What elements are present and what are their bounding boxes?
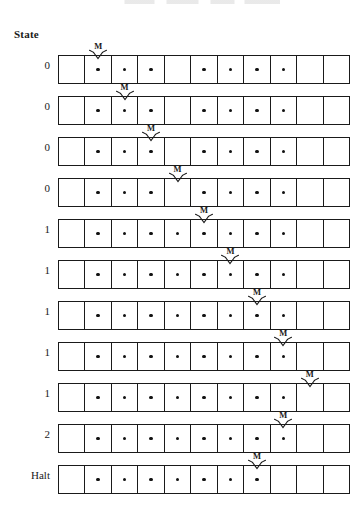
tape-cell[interactable]: [85, 466, 111, 493]
tape-cell[interactable]: [59, 179, 85, 206]
tape-cell[interactable]: [324, 466, 349, 493]
tape-cell[interactable]: [191, 97, 217, 124]
tape-cell[interactable]: [324, 138, 349, 165]
tape-cell[interactable]: [218, 97, 244, 124]
tape-cell[interactable]: [324, 220, 349, 247]
tape-cell[interactable]: [138, 179, 164, 206]
tape-cell[interactable]: [85, 343, 111, 370]
tape-cell[interactable]: [138, 302, 164, 329]
tape-cell[interactable]: [191, 179, 217, 206]
tape-cell[interactable]: [165, 466, 191, 493]
tape-cell[interactable]: [112, 343, 138, 370]
tape-cell[interactable]: [112, 302, 138, 329]
tape-cell[interactable]: [165, 138, 191, 165]
tape-cell[interactable]: [324, 343, 349, 370]
tape-cell[interactable]: M: [244, 302, 270, 329]
tape-cell[interactable]: [244, 261, 270, 288]
tape-cell[interactable]: M: [138, 138, 164, 165]
tape-cell[interactable]: [244, 220, 270, 247]
tape-cell[interactable]: [138, 384, 164, 411]
tape-cell[interactable]: [138, 261, 164, 288]
tape-cell[interactable]: [85, 425, 111, 452]
tape-cell[interactable]: [271, 97, 297, 124]
tape-cell[interactable]: [324, 384, 349, 411]
tape-cell[interactable]: [324, 179, 349, 206]
tape-cell[interactable]: [165, 343, 191, 370]
tape-cell[interactable]: [218, 343, 244, 370]
tape-cell[interactable]: [218, 425, 244, 452]
tape-cell[interactable]: [218, 384, 244, 411]
tape-cell[interactable]: [85, 384, 111, 411]
tape-cell[interactable]: [244, 343, 270, 370]
tape-cell[interactable]: [297, 466, 323, 493]
tape-cell[interactable]: [324, 97, 349, 124]
tape-cell[interactable]: [165, 97, 191, 124]
tape-cell[interactable]: [244, 179, 270, 206]
tape-cell[interactable]: M: [191, 220, 217, 247]
tape-cell[interactable]: M: [112, 97, 138, 124]
tape-cell[interactable]: [59, 302, 85, 329]
tape-cell[interactable]: [271, 384, 297, 411]
tape-cell[interactable]: [271, 261, 297, 288]
tape-cell[interactable]: [85, 97, 111, 124]
tape-cell[interactable]: M: [85, 56, 111, 83]
tape-cell[interactable]: [271, 138, 297, 165]
tape-cell[interactable]: [112, 261, 138, 288]
tape-cell[interactable]: [59, 220, 85, 247]
tape-cell[interactable]: [59, 343, 85, 370]
tape-cell[interactable]: [165, 56, 191, 83]
tape-cell[interactable]: [85, 220, 111, 247]
tape-cell[interactable]: [191, 425, 217, 452]
tape-cell[interactable]: M: [297, 384, 323, 411]
tape-cell[interactable]: [165, 384, 191, 411]
tape-cell[interactable]: [218, 302, 244, 329]
tape-cell[interactable]: [244, 56, 270, 83]
tape-cell[interactable]: [297, 179, 323, 206]
tape-cell[interactable]: [218, 138, 244, 165]
tape-cell[interactable]: M: [244, 466, 270, 493]
tape-cell[interactable]: [218, 466, 244, 493]
tape-cell[interactable]: [165, 425, 191, 452]
tape-cell[interactable]: [191, 384, 217, 411]
tape-cell[interactable]: [138, 343, 164, 370]
tape-cell[interactable]: [112, 466, 138, 493]
tape-cell[interactable]: [297, 97, 323, 124]
tape-cell[interactable]: [191, 261, 217, 288]
tape-cell[interactable]: M: [271, 343, 297, 370]
tape-cell[interactable]: [324, 261, 349, 288]
tape-cell[interactable]: [244, 138, 270, 165]
tape-cell[interactable]: [271, 466, 297, 493]
tape-cell[interactable]: [324, 302, 349, 329]
tape-cell[interactable]: [85, 302, 111, 329]
tape-cell[interactable]: [85, 179, 111, 206]
tape-cell[interactable]: [59, 97, 85, 124]
tape-cell[interactable]: M: [218, 261, 244, 288]
tape-cell[interactable]: [112, 220, 138, 247]
tape-cell[interactable]: [138, 425, 164, 452]
tape-cell[interactable]: [271, 220, 297, 247]
tape-cell[interactable]: [244, 425, 270, 452]
tape-cell[interactable]: [165, 302, 191, 329]
tape-cell[interactable]: [191, 302, 217, 329]
tape-cell[interactable]: [324, 56, 349, 83]
tape-cell[interactable]: [59, 425, 85, 452]
tape-cell[interactable]: [59, 466, 85, 493]
tape-cell[interactable]: [218, 220, 244, 247]
tape-cell[interactable]: [297, 56, 323, 83]
tape-cell[interactable]: [191, 56, 217, 83]
tape-cell[interactable]: [138, 56, 164, 83]
tape-cell[interactable]: [112, 425, 138, 452]
tape-cell[interactable]: [112, 384, 138, 411]
tape-cell[interactable]: [112, 138, 138, 165]
tape-cell[interactable]: [297, 261, 323, 288]
tape-cell[interactable]: [85, 138, 111, 165]
tape-cell[interactable]: [138, 97, 164, 124]
tape-cell[interactable]: [297, 343, 323, 370]
tape-cell[interactable]: [138, 220, 164, 247]
tape-cell[interactable]: [218, 179, 244, 206]
tape-cell[interactable]: [324, 425, 349, 452]
tape-cell[interactable]: [297, 425, 323, 452]
tape-cell[interactable]: [191, 466, 217, 493]
tape-cell[interactable]: [112, 179, 138, 206]
tape-cell[interactable]: [218, 56, 244, 83]
